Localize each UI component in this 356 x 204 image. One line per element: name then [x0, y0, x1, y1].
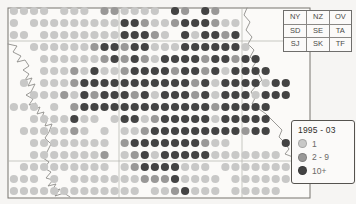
hectad-dot [262, 151, 270, 159]
hectad-dot [131, 139, 139, 147]
hectad-dot [80, 91, 88, 99]
hectad-dot [221, 163, 229, 171]
hectad-dot [131, 55, 139, 63]
hectad-dot [151, 175, 159, 183]
hectad-dot [30, 151, 38, 159]
hectad-dot [60, 31, 68, 39]
hectad-dot [171, 139, 179, 147]
hectad-dot [121, 115, 129, 123]
hectad-dot [201, 103, 209, 111]
hectad-dot [221, 151, 229, 159]
hectad-dot [161, 127, 169, 135]
hectad-dot [211, 31, 219, 39]
hectad-dot [191, 103, 199, 111]
hectad-dot [231, 151, 239, 159]
hectad-dot [50, 175, 58, 183]
hectad-dot [251, 91, 259, 99]
hectad-dot [141, 55, 149, 63]
hectad-dot [100, 103, 108, 111]
hectad-dot [171, 175, 179, 183]
hectad-dot [40, 139, 48, 147]
hectad-dot [121, 103, 129, 111]
hectad-dot [221, 19, 229, 27]
hectad-dot [201, 163, 209, 171]
hectad-dot [131, 67, 139, 75]
hectad-dot [161, 55, 169, 63]
hectad-dot [40, 187, 48, 195]
hectad-dot [181, 67, 189, 75]
hectad-dot [131, 103, 139, 111]
hectad-dot [262, 163, 270, 171]
hectad-dot [80, 43, 88, 51]
hectad-dot [121, 43, 129, 51]
hectad-dot [100, 187, 108, 195]
hectad-dot [141, 127, 149, 135]
hectad-dot [90, 175, 98, 183]
hectad-dot [141, 175, 149, 183]
hectad-dot [40, 43, 48, 51]
hectad-dot [191, 67, 199, 75]
hectad-dot [241, 175, 249, 183]
legend-item: 10+ [298, 166, 348, 176]
hectad-dot [231, 67, 239, 75]
hectad-dot [151, 139, 159, 147]
hectad-dot [181, 91, 189, 99]
hectad-dot [181, 31, 189, 39]
hectad-dot [100, 7, 108, 15]
hectad-dot [141, 67, 149, 75]
hectad-dot [70, 175, 78, 183]
hectad-dot [111, 103, 119, 111]
hectad-dot [80, 7, 88, 15]
hectad-dot [80, 187, 88, 195]
hectad-dot [111, 67, 119, 75]
hectad-dot [241, 115, 249, 123]
hectad-dot [131, 19, 139, 27]
hectad-dot [151, 151, 159, 159]
hectad-dot [161, 67, 169, 75]
hectad-dot [111, 187, 119, 195]
hectad-dot [70, 103, 78, 111]
hectad-dot [70, 43, 78, 51]
hectad-dot [231, 79, 239, 87]
hectad-dot [191, 187, 199, 195]
hectad-dot [70, 31, 78, 39]
hectad-dot [90, 139, 98, 147]
hectad-dot [221, 115, 229, 123]
legend-label: 2 - 9 [312, 152, 329, 162]
grid-square-label-sk: SK [306, 37, 328, 51]
hectad-dot [231, 115, 239, 123]
hectad-dot [50, 19, 58, 27]
hectad-dot [20, 175, 28, 183]
hectad-dot [60, 163, 68, 171]
hectad-dot [181, 43, 189, 51]
hectad-dot [70, 55, 78, 63]
hectad-dot [100, 91, 108, 99]
hectad-dot [191, 163, 199, 171]
hectad-dot [141, 91, 149, 99]
hectad-dot [231, 187, 239, 195]
hectad-dot [211, 127, 219, 135]
hectad-dot [50, 79, 58, 87]
hectad-dot [141, 43, 149, 51]
hectad-dot [251, 127, 259, 135]
legend-item: 2 - 9 [298, 152, 348, 162]
hectad-dot [272, 187, 280, 195]
hectad-dot [201, 43, 209, 51]
hectad-dot [181, 151, 189, 159]
hectad-dot [262, 115, 270, 123]
hectad-dot [100, 67, 108, 75]
hectad-dot [171, 67, 179, 75]
hectad-dot [100, 31, 108, 39]
hectad-dot [111, 55, 119, 63]
hectad-dot [60, 43, 68, 51]
hectad-dot [121, 67, 129, 75]
hectad-dot [121, 163, 129, 171]
hectad-dot [151, 43, 159, 51]
hectad-dot [262, 91, 270, 99]
hectad-dot [151, 19, 159, 27]
hectad-dot [151, 115, 159, 123]
hectad-dot [90, 19, 98, 27]
hectad-dot [30, 175, 38, 183]
hectad-dot [40, 31, 48, 39]
hectad-dot [181, 19, 189, 27]
